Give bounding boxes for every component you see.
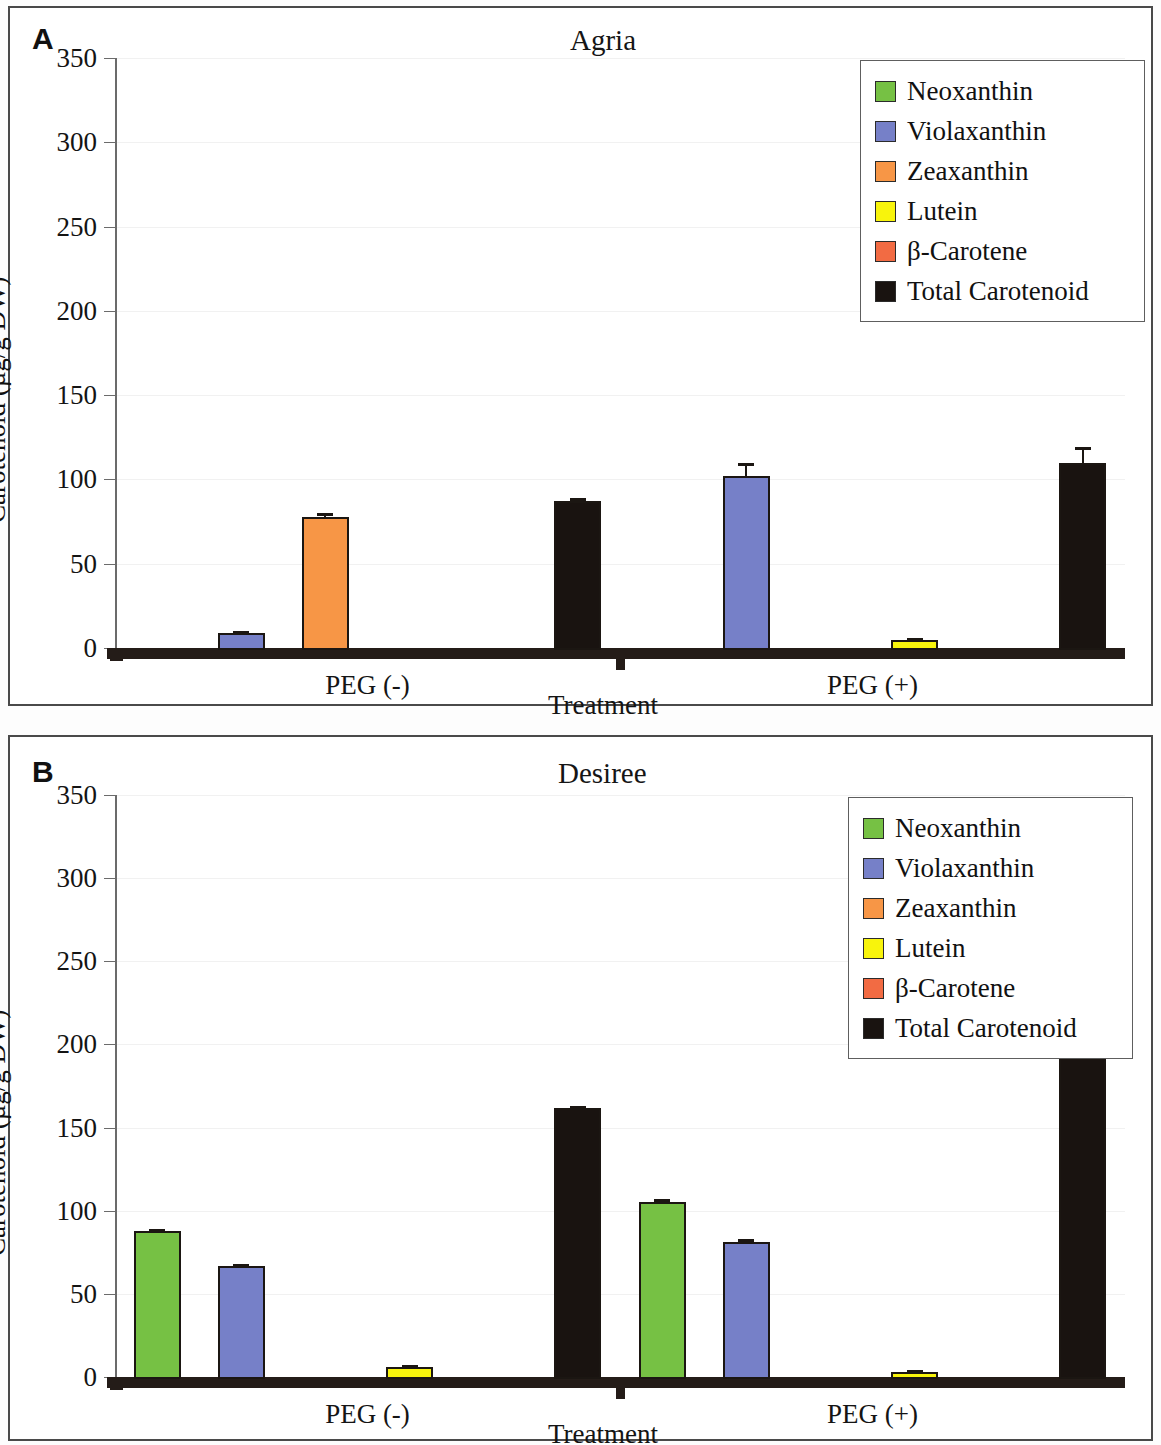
legend-item: Lutein xyxy=(875,191,1128,231)
y-axis-line xyxy=(115,795,117,1377)
panel-b-title: Desiree xyxy=(558,757,647,790)
error-bar-cap xyxy=(233,631,249,634)
x-axis-group-label: PEG (+) xyxy=(620,670,1125,701)
legend-swatch-icon xyxy=(875,241,896,262)
y-axis-tick-label: 0 xyxy=(19,633,97,664)
y-axis-tick xyxy=(104,795,115,796)
y-axis-tick xyxy=(104,479,115,480)
x-axis-group-label: PEG (-) xyxy=(115,670,620,701)
y-axis-tick-label: 100 xyxy=(19,464,97,495)
panel-a-title: Agria xyxy=(570,24,636,57)
bar xyxy=(218,633,265,650)
gridline xyxy=(115,1294,1125,1295)
panel-b: B Desiree 050100150200250300350Carotenoi… xyxy=(8,735,1153,1441)
gridline xyxy=(115,1128,1125,1129)
bar xyxy=(1059,463,1106,650)
legend-swatch-icon xyxy=(863,978,884,999)
gridline xyxy=(115,795,1125,796)
bar xyxy=(639,1202,686,1379)
legend-swatch-icon xyxy=(875,201,896,222)
error-bar-cap xyxy=(149,1229,165,1232)
bar xyxy=(554,1108,601,1379)
error-bar-cap xyxy=(570,1106,586,1109)
x-axis-group-label: PEG (+) xyxy=(620,1399,1125,1430)
panel-b-legend: NeoxanthinViolaxanthinZeaxanthinLuteinβ-… xyxy=(848,797,1133,1059)
y-axis-tick xyxy=(104,1128,115,1129)
y-axis-tick-label: 200 xyxy=(19,295,97,326)
error-bar-cap xyxy=(654,1199,670,1202)
y-axis-tick-label: 250 xyxy=(19,211,97,242)
panel-a: A Agria 050100150200250300350Carotenoid … xyxy=(8,6,1153,706)
error-bar-cap xyxy=(570,498,586,501)
gridline xyxy=(115,564,1125,565)
y-axis-tick-label: 300 xyxy=(19,127,97,158)
y-axis-tick xyxy=(104,878,115,879)
legend-item-label: β-Carotene xyxy=(907,238,1027,265)
legend-item: Total Carotenoid xyxy=(875,271,1128,311)
y-axis-tick xyxy=(104,1044,115,1045)
x-axis-center-tick xyxy=(616,1386,625,1399)
x-axis-center-tick xyxy=(616,657,625,670)
axis-origin-marker xyxy=(110,649,123,661)
y-axis-tick xyxy=(104,1211,115,1212)
error-bar-cap xyxy=(907,1370,923,1373)
y-axis-tick-label: 200 xyxy=(19,1029,97,1060)
axis-origin-marker xyxy=(110,1378,123,1390)
bar xyxy=(218,1266,265,1379)
y-axis-line xyxy=(115,58,117,648)
error-bar-cap xyxy=(738,1239,754,1242)
error-bar-cap xyxy=(317,513,333,516)
legend-swatch-icon xyxy=(863,858,884,879)
legend-item-label: Zeaxanthin xyxy=(895,895,1016,922)
y-axis-tick-label: 350 xyxy=(19,43,97,74)
legend-item-label: Lutein xyxy=(907,198,977,225)
legend-swatch-icon xyxy=(875,281,896,302)
bar xyxy=(723,1242,770,1379)
legend-item: Violaxanthin xyxy=(875,111,1128,151)
gridline xyxy=(115,395,1125,396)
gridline xyxy=(115,1211,1125,1212)
y-axis-tick-label: 100 xyxy=(19,1195,97,1226)
bar xyxy=(723,476,770,650)
y-axis-tick-label: 150 xyxy=(19,380,97,411)
legend-item: Neoxanthin xyxy=(863,808,1116,848)
legend-swatch-icon xyxy=(875,81,896,102)
y-axis-tick xyxy=(104,961,115,962)
legend-swatch-icon xyxy=(863,1018,884,1039)
legend-item: Zeaxanthin xyxy=(863,888,1116,928)
legend-item: β-Carotene xyxy=(875,231,1128,271)
x-axis-group-label: PEG (-) xyxy=(115,1399,620,1430)
error-bar-cap xyxy=(907,638,923,641)
legend-swatch-icon xyxy=(875,121,896,142)
x-axis-title: Treatment xyxy=(548,1419,658,1445)
legend-item: Neoxanthin xyxy=(875,71,1128,111)
y-axis-title: Carotenoid (µg/g DW) xyxy=(0,277,12,524)
bar xyxy=(386,1367,433,1379)
legend-item-label: Zeaxanthin xyxy=(907,158,1028,185)
legend-item-label: Lutein xyxy=(895,935,965,962)
y-axis-tick-label: 300 xyxy=(19,863,97,894)
legend-swatch-icon xyxy=(863,938,884,959)
legend-item-label: Violaxanthin xyxy=(907,118,1046,145)
y-axis-tick-label: 0 xyxy=(19,1362,97,1393)
legend-item-label: Total Carotenoid xyxy=(895,1015,1077,1042)
legend-item-label: Total Carotenoid xyxy=(907,278,1089,305)
error-bar-cap xyxy=(402,1365,418,1368)
legend-item: Zeaxanthin xyxy=(875,151,1128,191)
panel-a-legend: NeoxanthinViolaxanthinZeaxanthinLuteinβ-… xyxy=(860,60,1145,322)
error-bar-cap xyxy=(233,1264,249,1267)
y-axis-tick-label: 250 xyxy=(19,946,97,977)
legend-item-label: Neoxanthin xyxy=(907,78,1033,105)
y-axis-tick-label: 50 xyxy=(19,1278,97,1309)
y-axis-tick-label: 350 xyxy=(19,780,97,811)
y-axis-tick-label: 50 xyxy=(19,548,97,579)
legend-item: Total Carotenoid xyxy=(863,1008,1116,1048)
x-axis-title: Treatment xyxy=(548,690,658,721)
error-bar-cap xyxy=(738,463,754,466)
legend-item-label: Violaxanthin xyxy=(895,855,1034,882)
error-bar-cap xyxy=(1075,447,1091,450)
bar xyxy=(891,640,938,650)
legend-item: Lutein xyxy=(863,928,1116,968)
figure-page: A Agria 050100150200250300350Carotenoid … xyxy=(0,0,1161,1445)
legend-swatch-icon xyxy=(863,818,884,839)
